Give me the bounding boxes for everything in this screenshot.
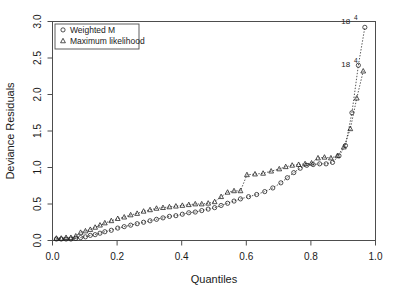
data-point-triangle xyxy=(88,227,93,231)
data-point-circle xyxy=(213,206,217,210)
data-point-circle xyxy=(255,192,259,196)
y-tick-label: 1.5 xyxy=(32,124,43,138)
point-label: 184 xyxy=(341,14,358,26)
point-label: 184 xyxy=(341,57,358,69)
deviance-residuals-qq-plot: 0.00.20.40.60.81.00.00.51.01.52.02.53.0Q… xyxy=(0,0,396,288)
data-point-triangle xyxy=(316,155,321,159)
data-point-triangle xyxy=(361,69,366,73)
x-axis-title: Quantiles xyxy=(191,273,238,285)
y-tick-label: 3.0 xyxy=(32,14,43,28)
x-tick-label: 0.6 xyxy=(239,251,253,262)
data-point-triangle xyxy=(73,234,78,238)
x-tick-label: 0.8 xyxy=(304,251,318,262)
x-tick-label: 0.0 xyxy=(46,251,60,262)
y-tick-label: 0.0 xyxy=(32,233,43,247)
series-line-2 xyxy=(56,71,363,238)
series-group xyxy=(54,25,367,241)
data-point-circle xyxy=(263,189,267,193)
legend-label-2: Maximum likelihood xyxy=(70,36,145,46)
x-tick-label: 0.2 xyxy=(110,251,124,262)
plot-frame xyxy=(53,22,376,241)
data-point-triangle xyxy=(212,199,217,203)
data-point-circle xyxy=(246,195,250,199)
legend-label-1: Weighted M xyxy=(70,25,115,35)
y-tick-label: 0.5 xyxy=(32,197,43,211)
data-point-triangle xyxy=(348,126,353,130)
data-point-circle xyxy=(232,199,236,203)
y-axis-title: Deviance Residuals xyxy=(4,82,16,180)
data-point-triangle xyxy=(219,194,224,198)
x-tick-label: 1.0 xyxy=(369,251,383,262)
data-point-circle xyxy=(225,201,229,205)
data-point-circle xyxy=(279,181,283,185)
y-tick-label: 2.5 xyxy=(32,51,43,65)
y-tick-label: 1.0 xyxy=(32,160,43,174)
series-line-1 xyxy=(56,27,364,239)
data-point-circle xyxy=(98,231,102,235)
y-tick-label: 2.0 xyxy=(32,87,43,101)
chart-canvas: 0.00.20.40.60.81.00.00.51.01.52.02.53.0Q… xyxy=(0,0,396,288)
x-tick-label: 0.4 xyxy=(175,251,189,262)
